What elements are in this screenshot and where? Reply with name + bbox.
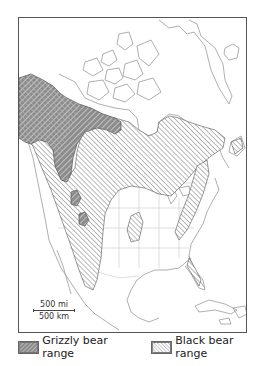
map-frame: 500 mi 500 km [18,17,247,333]
black-bear-swatch-icon [151,341,172,354]
scale-line [33,310,75,311]
legend-item-grizzly: Grizzly bear range [18,334,139,360]
scale-miles-label: 500 mi [33,300,75,309]
legend-item-black: Black bear range [151,334,265,360]
legend: Grizzly bear range Black bear range [18,337,265,357]
legend-label-grizzly: Grizzly bear range [42,334,139,360]
scale-bar: 500 mi 500 km [33,300,75,321]
legend-label-black: Black bear range [175,334,265,360]
north-america-map [19,18,247,333]
grizzly-swatch-icon [18,341,39,354]
scale-km-label: 500 km [33,312,75,321]
